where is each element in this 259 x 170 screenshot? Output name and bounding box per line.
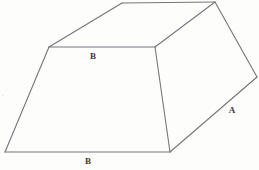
figure-line-art [0, 0, 259, 170]
face-label-a-right: A [229, 106, 236, 115]
geometry-figure: B B A · [0, 0, 259, 170]
front-face [5, 47, 170, 152]
left-margin-mark: · [2, 93, 4, 100]
face-label-b-bottom: B [85, 157, 91, 166]
face-label-b-top: B [90, 52, 96, 61]
